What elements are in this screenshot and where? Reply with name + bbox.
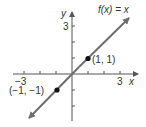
function-label: f(x) = x: [98, 5, 129, 15]
function-graph: [0, 0, 146, 127]
x-axis-label: x: [129, 77, 134, 87]
point-label-1-1: (1, 1): [92, 55, 115, 65]
point-neg1-neg1: [54, 87, 59, 92]
y-tick-label-3: 3: [63, 22, 69, 32]
point-1-1: [85, 56, 90, 61]
point-label-neg1-neg1: (−1, −1): [9, 86, 44, 96]
x-tick-label-3: 3: [117, 77, 123, 87]
y-axis-label: y: [61, 9, 66, 19]
